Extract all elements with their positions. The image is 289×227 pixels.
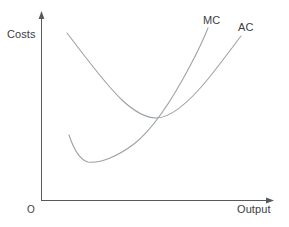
marginal-cost-curve — [69, 28, 208, 162]
average-cost-curve-label: AC — [238, 21, 253, 34]
origin-label: O — [27, 203, 35, 216]
cost-curves-figure: Costs O Output MC AC — [0, 0, 289, 227]
marginal-cost-curve-label: MC — [203, 14, 220, 27]
y-axis-label: Costs — [7, 28, 36, 41]
chart-canvas — [0, 0, 289, 227]
average-cost-curve — [67, 33, 241, 118]
x-axis-label: Output — [237, 203, 271, 216]
y-axis-arrowhead — [39, 11, 45, 19]
